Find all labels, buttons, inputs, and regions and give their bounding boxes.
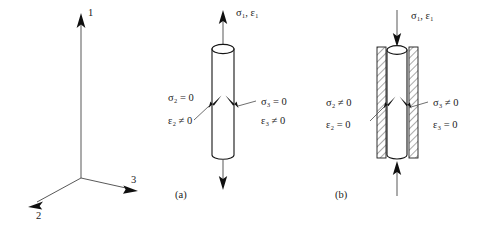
- panel-b: σ₁, ε₁ σ₂ ≠ 0 ε₂ = 0 σ₃ ≠ 0 ε₃ = 0 (b): [326, 10, 459, 201]
- panel-a-axial-arrow-bottom: [219, 160, 227, 190]
- panel-b-strain-right-label: ε₃ = 0: [433, 119, 458, 130]
- axis-2-arrow: [28, 178, 81, 210]
- panel-b-confining-wall-left: [377, 47, 386, 158]
- axis-2-label: 2: [36, 210, 41, 221]
- panel-a-leader-left: [194, 106, 209, 120]
- panel-b-axial-label: σ₁, ε₁: [411, 10, 434, 21]
- panel-a: σ₁, ε₁ σ₂ = 0 ε₂ ≠ 0 σ₃ = 0 ε₃ ≠ 0 (a): [168, 7, 287, 201]
- axis-3-label: 3: [131, 174, 136, 185]
- panel-b-stress-right-label: σ₃ ≠ 0: [433, 97, 459, 108]
- panel-a-stress-right-label: σ₃ = 0: [261, 96, 287, 107]
- panel-a-axial-arrow-top: [219, 10, 227, 46]
- panel-a-axial-label: σ₁, ε₁: [236, 7, 259, 18]
- panel-b-axial-arrow-bottom: [393, 161, 401, 196]
- panel-b-confining-wall-right: [409, 47, 418, 158]
- panel-b-caption: (b): [335, 189, 348, 201]
- panel-a-strain-left-label: ε₂ ≠ 0: [168, 115, 192, 126]
- panel-a-caption: (a): [175, 189, 187, 201]
- axis-1-arrow: [77, 13, 86, 178]
- panel-b-axial-arrow-top: [393, 10, 401, 47]
- axis-3-arrow: [81, 178, 138, 194]
- stress-strain-states-figure: 1 2 3: [0, 0, 491, 229]
- panel-a-stress-left-label: σ₂ = 0: [168, 92, 194, 103]
- panel-a-leader-right: [238, 101, 256, 106]
- panel-a-strain-right-label: ε₃ ≠ 0: [261, 115, 285, 126]
- axis-1-label: 1: [88, 7, 93, 18]
- panel-b-strain-left-label: ε₂ = 0: [326, 119, 351, 130]
- panel-b-stress-left-label: σ₂ ≠ 0: [326, 97, 352, 108]
- principal-axes-triad: 1 2 3: [28, 7, 138, 221]
- figure-root: 1 2 3: [0, 0, 491, 229]
